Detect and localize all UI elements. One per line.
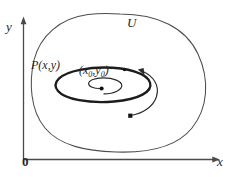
y-axis-arrowhead xyxy=(21,17,27,25)
region-u-group xyxy=(31,13,205,152)
cycle-direction-dot xyxy=(123,68,126,71)
closed-orbit-label-text: P(x,y) xyxy=(31,58,60,72)
interior-point-paren-close: ) xyxy=(105,63,109,77)
outer-trajectory-start-dot xyxy=(128,114,132,118)
region-u-boundary xyxy=(31,13,205,152)
interior-point-dot xyxy=(100,86,104,90)
inner-spiral-group xyxy=(89,78,122,94)
y-axis-label: y xyxy=(6,20,12,33)
region-u-label: U xyxy=(127,16,136,29)
phase-plane-figure: y x 0 U P(x,y) (x0,y0) xyxy=(0,0,232,177)
inner-spiral-path xyxy=(89,78,122,94)
closed-orbit-label: P(x,y) xyxy=(31,59,60,71)
inner-spiral-direction-marker xyxy=(123,68,126,71)
interior-point-label: (x0,y0) xyxy=(79,64,109,79)
figure-canvas xyxy=(0,0,232,177)
x-axis-label: x xyxy=(217,155,223,168)
origin-label: 0 xyxy=(22,155,29,168)
